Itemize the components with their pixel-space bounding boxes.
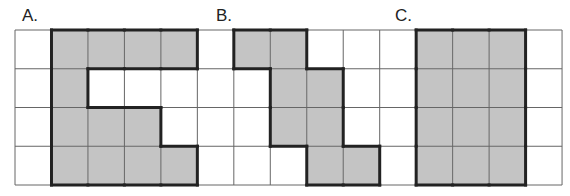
shaded-cell bbox=[489, 108, 525, 147]
shaded-cell bbox=[416, 108, 452, 147]
shaded-cell bbox=[416, 30, 452, 69]
shaded-cell bbox=[124, 108, 160, 147]
shaded-cell bbox=[453, 146, 489, 185]
shaded-cell bbox=[416, 69, 452, 108]
shaded-cell bbox=[88, 146, 124, 185]
shaded-cell bbox=[161, 146, 197, 185]
shaded-cell bbox=[307, 108, 343, 147]
shape-label-c: C. bbox=[395, 6, 412, 26]
shaded-cell bbox=[88, 30, 124, 69]
shaded-cell bbox=[124, 30, 160, 69]
shaded-cell bbox=[234, 30, 270, 69]
shaded-cell bbox=[489, 69, 525, 108]
shaded-cell bbox=[88, 108, 124, 147]
grid-figure bbox=[0, 0, 570, 196]
shaded-cell bbox=[161, 30, 197, 69]
shaded-cell bbox=[51, 69, 87, 108]
shape-label-b: B. bbox=[216, 6, 232, 26]
shaded-cell bbox=[453, 108, 489, 147]
shaded-cell bbox=[453, 69, 489, 108]
shaded-cell bbox=[489, 30, 525, 69]
shaded-cell bbox=[51, 30, 87, 69]
shaded-cell bbox=[51, 146, 87, 185]
shaded-cell bbox=[270, 30, 306, 69]
shaded-cell bbox=[343, 146, 379, 185]
shaded-cell bbox=[307, 146, 343, 185]
shaded-cell bbox=[307, 69, 343, 108]
shaded-cell bbox=[453, 30, 489, 69]
shaded-cell bbox=[416, 146, 452, 185]
shaded-cell bbox=[51, 108, 87, 147]
shaded-cell bbox=[270, 69, 306, 108]
shaded-cell bbox=[489, 146, 525, 185]
shaded-cell bbox=[270, 108, 306, 147]
shaded-cell bbox=[124, 146, 160, 185]
shape-label-a: A. bbox=[22, 6, 38, 26]
